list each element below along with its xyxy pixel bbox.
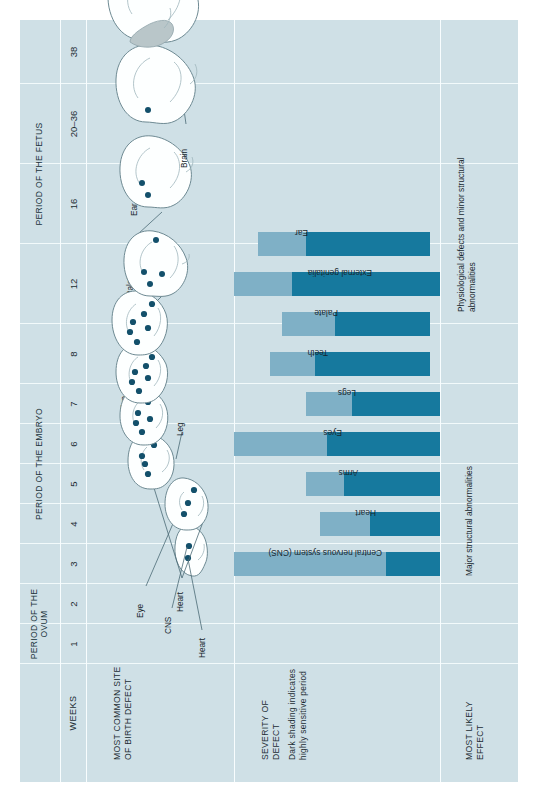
row-label-most-common-site: MOST COMMON SITE OF BIRTH DEFECT bbox=[112, 666, 134, 760]
week-cell-4: 4 bbox=[60, 504, 86, 544]
callout-label-brain: Brain bbox=[180, 149, 189, 168]
critical-periods-chart: PERIOD OF THE OVUM PERIOD OF THE EMBRYO … bbox=[20, 20, 518, 782]
row-label-severity-sublabel: Dark shading indicates highly sensitive … bbox=[287, 666, 309, 760]
week-cell-6: 6 bbox=[60, 424, 86, 464]
callout-label-cns-w3: CNS bbox=[164, 617, 173, 634]
bar-dark-segment bbox=[335, 312, 430, 336]
week-cell-38: 38 bbox=[60, 20, 86, 84]
bar-dark-segment bbox=[352, 392, 440, 416]
bar-label-teeth: Teeth bbox=[308, 348, 329, 358]
bar-label-heart: Heart bbox=[356, 508, 376, 518]
row-label-most-likely-effect: MOST LIKELY EFFECT bbox=[464, 666, 486, 760]
period-band-fetus-label: PERIOD OF THE FETUS bbox=[35, 123, 45, 226]
period-band-ovum-label: PERIOD OF THE OVUM bbox=[30, 584, 50, 664]
row-divider bbox=[440, 20, 441, 782]
bar-label-ear: Ear bbox=[295, 228, 308, 238]
bar-label-legs: Legs bbox=[338, 388, 356, 398]
week-cell-1: 1 bbox=[60, 624, 86, 664]
bar-palate[interactable]: Palate bbox=[282, 312, 430, 336]
bar-label-central-nervous-system: Central nervous system (CNS) bbox=[268, 548, 382, 558]
rotated-chart-wrapper: PERIOD OF THE OVUM PERIOD OF THE EMBRYO … bbox=[20, 20, 518, 782]
bar-dark-segment bbox=[344, 472, 440, 496]
bar-label-palate: Palate bbox=[314, 308, 338, 318]
week-cell-20-36: 20–36 bbox=[60, 84, 86, 164]
bar-legs[interactable]: Legs bbox=[306, 392, 440, 416]
fetus-week-16 bbox=[116, 130, 196, 214]
fetus-week-12 bbox=[120, 226, 192, 302]
figure-canvas: PERIOD OF THE OVUM PERIOD OF THE EMBRYO … bbox=[0, 0, 538, 802]
period-band-embryo: PERIOD OF THE EMBRYO bbox=[20, 344, 60, 584]
bar-dark-segment bbox=[386, 552, 440, 576]
week-cell-12: 12 bbox=[60, 244, 86, 324]
bar-dark-segment bbox=[327, 432, 440, 456]
week-cell-8: 8 bbox=[60, 324, 86, 384]
bar-eyes[interactable]: Eyes bbox=[234, 432, 440, 456]
bar-heart[interactable]: Heart bbox=[320, 512, 440, 536]
effect-physiological-defects: Physiological defects and minor structur… bbox=[456, 112, 478, 312]
bar-label-arms: Arms bbox=[338, 468, 358, 478]
bar-dark-segment bbox=[315, 352, 430, 376]
bar-label-eyes: Eyes bbox=[323, 428, 342, 438]
bar-dark-segment bbox=[370, 512, 440, 536]
week-cell-2: 2 bbox=[60, 584, 86, 624]
row-label-severity: SEVERITY OF DEFECT Dark shading indicate… bbox=[260, 666, 309, 760]
row-label-severity-text: SEVERITY OF DEFECT bbox=[260, 700, 281, 760]
callout-label-heart-w4: Heart bbox=[176, 592, 185, 612]
row-label-most-likely-effect-text: MOST LIKELY EFFECT bbox=[464, 701, 485, 760]
period-band-ovum: PERIOD OF THE OVUM bbox=[20, 584, 60, 664]
embryo-development-illustrations: Heart CNS bbox=[86, 20, 234, 664]
bar-label-external-genitalia: External genitalia bbox=[308, 268, 372, 278]
week-cell-3: 3 bbox=[60, 544, 86, 584]
bar-ear[interactable]: Ear bbox=[258, 232, 430, 256]
bar-arms[interactable]: Arms bbox=[306, 472, 440, 496]
row-divider bbox=[234, 20, 235, 782]
bar-external-genitalia[interactable]: External genitalia bbox=[234, 272, 440, 296]
week-cell-7: 7 bbox=[60, 384, 86, 424]
row-label-most-common-site-text: MOST COMMON SITE OF BIRTH DEFECT bbox=[112, 667, 133, 760]
fetus-week-38 bbox=[104, 0, 204, 50]
callout-label-eye-w4: Eye bbox=[136, 604, 145, 618]
fetus-week-20-36 bbox=[112, 40, 200, 130]
period-band-fetus: PERIOD OF THE FETUS bbox=[20, 24, 60, 324]
bar-dark-segment bbox=[306, 232, 430, 256]
period-band-embryo-label: PERIOD OF THE EMBRYO bbox=[35, 408, 45, 520]
week-cell-5: 5 bbox=[60, 464, 86, 504]
bar-teeth[interactable]: Teeth bbox=[270, 352, 430, 376]
effect-major-structural-abnormalities: Major structural abnormalities bbox=[464, 326, 475, 576]
week-cell-16: 16 bbox=[60, 164, 86, 244]
bar-central-nervous-system[interactable]: Central nervous system (CNS) bbox=[234, 552, 440, 576]
weeks-axis-label: WEEKS bbox=[60, 664, 86, 762]
callout-label-heart-w3: Heart bbox=[198, 638, 207, 658]
